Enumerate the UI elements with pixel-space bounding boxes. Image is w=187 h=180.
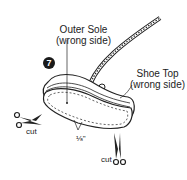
scissors-bottom-icon <box>114 133 126 165</box>
outer-sole-label: Outer Sole (wrong side) <box>56 24 111 46</box>
step-number-badge: 7 <box>43 57 55 69</box>
shoe-top-label: Shoe Top (wrong side) <box>130 68 185 90</box>
shoe-top-title: Shoe Top <box>130 68 185 79</box>
cut-label-left: cut <box>26 126 37 137</box>
seam-allowance-label: ⅛" <box>76 133 86 144</box>
outer-sole-subtitle: (wrong side) <box>56 35 111 46</box>
outer-sole-title: Outer Sole <box>56 24 111 35</box>
cut-label-bottom: cut <box>101 154 112 165</box>
shoe-top-subtitle: (wrong side) <box>130 79 185 90</box>
